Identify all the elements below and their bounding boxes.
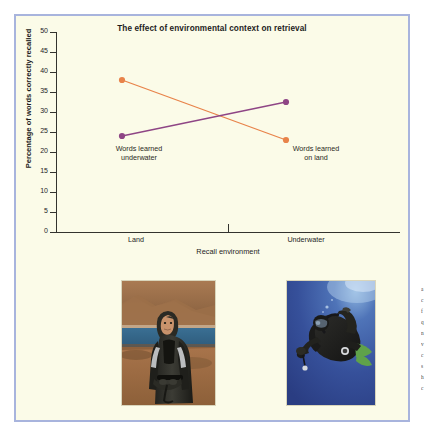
annotation-line-2: on land: [271, 153, 361, 162]
annotation-words-learned-on-land: Words learned on land: [271, 144, 361, 162]
annotation-line-1: Words learned: [271, 144, 361, 153]
margin-text-line: h: [421, 372, 438, 383]
figure-panel: The effect of environmental context on r…: [14, 14, 410, 422]
annotation-line-1: Words learned: [94, 144, 184, 153]
diver-on-land-photo: [121, 280, 216, 406]
margin-clipped-text: acfqnvcshc: [421, 284, 438, 394]
margin-text-line: v: [421, 339, 438, 350]
margin-text-line: c: [421, 383, 438, 394]
margin-text-line: s: [421, 361, 438, 372]
margin-text-line: c: [421, 295, 438, 306]
margin-text-line: c: [421, 350, 438, 361]
data-point-marker: [119, 133, 125, 139]
annotation-line-2: underwater: [94, 153, 184, 162]
margin-text-line: a: [421, 284, 438, 295]
data-point-marker: [119, 77, 125, 83]
data-point-marker: [283, 137, 289, 143]
annotation-words-learned-underwater: Words learned underwater: [94, 144, 184, 162]
margin-text-line: n: [421, 328, 438, 339]
margin-text-line: f: [421, 306, 438, 317]
margin-text-line: q: [421, 317, 438, 328]
data-point-marker: [283, 99, 289, 105]
diver-underwater-photo: [286, 280, 376, 406]
